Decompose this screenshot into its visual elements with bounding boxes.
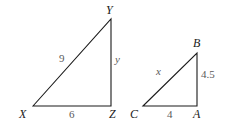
side-label-ca: 4 xyxy=(167,108,173,120)
side-label-xy: 9 xyxy=(59,52,65,64)
side-label-cb: x xyxy=(155,65,161,77)
vertex-label-y: Y xyxy=(106,3,114,17)
triangle-xyz: Y X Z 9 y 6 xyxy=(18,3,120,121)
side-label-ba: 4.5 xyxy=(201,68,215,80)
vertex-label-c: C xyxy=(130,107,139,121)
vertex-label-x: X xyxy=(18,107,27,121)
vertex-label-a: A xyxy=(192,107,201,121)
triangle-xyz-outline xyxy=(33,19,111,106)
similar-triangles-diagram: Y X Z 9 y 6 B C A x 4.5 4 xyxy=(0,0,230,127)
triangle-cba: B C A x 4.5 4 xyxy=(130,36,215,121)
vertex-label-z: Z xyxy=(109,107,116,121)
triangle-cba-outline xyxy=(143,53,197,106)
side-label-yz: y xyxy=(114,53,120,65)
side-label-xz: 6 xyxy=(69,108,75,120)
vertex-label-b: B xyxy=(193,36,201,50)
